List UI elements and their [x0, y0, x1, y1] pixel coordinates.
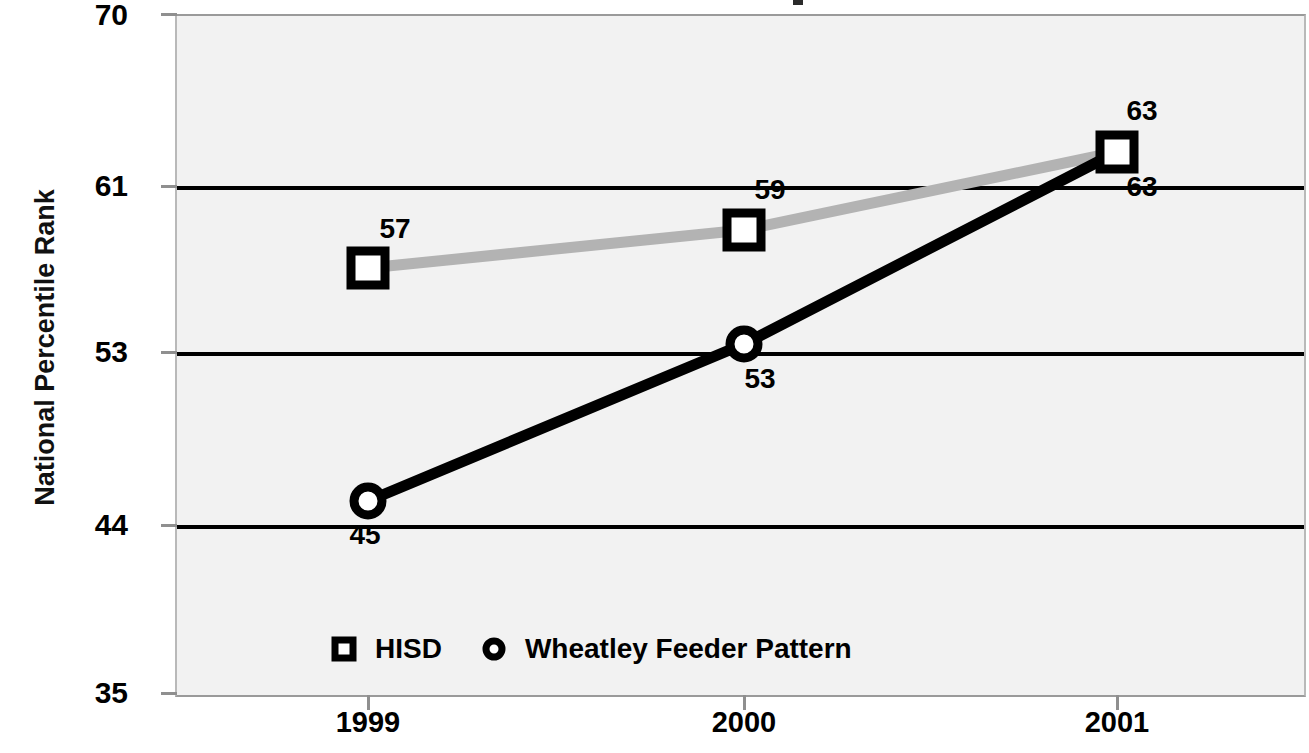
y-tick-mark-44: [161, 524, 177, 527]
line-chart: National Percentile Rank 70 61 53 44 35 …: [0, 0, 1309, 753]
y-tick-mark-35: [161, 692, 177, 695]
y-tick-label-61: 61: [0, 171, 128, 201]
data-label-wheatley-2000: 53: [715, 365, 805, 393]
y-tick-label-70: 70: [0, 0, 128, 30]
y-tick-mark-53: [161, 351, 177, 354]
y-tick-label-53: 53: [0, 337, 128, 367]
circle-marker-icon: [480, 635, 508, 663]
x-tick-label-2001: 2001: [1027, 708, 1207, 737]
square-marker-icon: [330, 635, 358, 663]
legend-label-wheatley: Wheatley Feeder Pattern: [525, 633, 852, 665]
legend-label-hisd: HISD: [375, 633, 442, 665]
legend-entry-wheatley[interactable]: Wheatley Feeder Pattern: [480, 633, 852, 665]
y-tick-mark-61: [161, 185, 177, 188]
data-label-hisd-2000: 59: [725, 176, 815, 204]
gridline-53: [177, 352, 1304, 356]
x-tick-label-1999: 1999: [278, 708, 458, 737]
y-tick-mark-70: [161, 13, 177, 16]
cropped-title-fragment: [793, 0, 803, 5]
x-tick-label-2000: 2000: [654, 708, 834, 737]
data-label-hisd-1999: 57: [350, 215, 440, 243]
legend-entry-hisd[interactable]: HISD: [330, 633, 442, 665]
data-label-wheatley-1999: 45: [320, 521, 410, 549]
y-tick-label-44: 44: [0, 510, 128, 540]
data-label-hisd-2001: 63: [1097, 97, 1187, 125]
data-label-wheatley-2001: 63: [1097, 173, 1187, 201]
y-tick-label-35: 35: [0, 678, 128, 708]
legend: HISD Wheatley Feeder Pattern: [330, 633, 852, 665]
